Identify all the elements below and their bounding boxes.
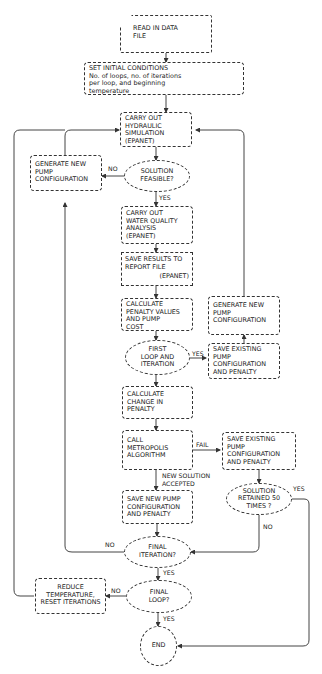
node-line: AND PENALTY xyxy=(213,369,275,377)
edge-label-first-loop-yes: YES xyxy=(192,350,204,357)
node-line: REPORT FILE xyxy=(125,264,189,272)
edge-label-feasible-yes: YES xyxy=(159,194,171,201)
water-quality-analysis-node: CARRY OUT WATER QUALITY ANALYSIS (EPANET… xyxy=(121,206,193,244)
calculate-change-penalty-node: CALCULATE CHANGE IN PENALTY xyxy=(122,386,193,419)
node-line: CONFIGURATION xyxy=(35,176,97,184)
flowchart-connectors xyxy=(0,0,322,674)
node-line: PENALTY xyxy=(127,406,188,414)
edge-label-final-iter-no: NO xyxy=(105,541,115,548)
node-line: FILE xyxy=(133,33,207,41)
node-line: AND PENALTY xyxy=(227,459,291,467)
node-line: RESET ITERATIONS xyxy=(38,599,103,607)
save-results-report-node: SAVE RESULTS TO REPORT FILE (EPANET) xyxy=(121,252,193,286)
edge-label-retained-yes: YES xyxy=(293,485,305,492)
generate-new-pump-config-right-node: GENERATE NEW PUMP CONFIGURATION xyxy=(208,296,280,335)
node-line: TIMES ? xyxy=(247,503,272,511)
read-data-node: READ IN DATA FILE xyxy=(120,15,212,53)
node-line: CONFIGURATION xyxy=(213,317,275,325)
final-loop-decision: FINAL LOOP? xyxy=(126,580,192,613)
solution-feasible-decision: SOLUTION FEASIBLE? xyxy=(124,160,190,192)
calculate-penalty-node: CALCULATE PENALTY VALUES AND PUMP COST xyxy=(121,298,193,331)
node-line: FEASIBLE? xyxy=(140,176,173,184)
final-iteration-decision: FINAL ITERATION? xyxy=(124,536,191,568)
node-line: temperature xyxy=(89,88,239,96)
save-existing-config-2-node: SAVE EXISTING PUMP CONFIGURATION AND PEN… xyxy=(222,432,296,470)
hydraulic-simulation-node: CARRY OUT HYDRAULIC SIMULATION (EPANET) xyxy=(120,112,192,147)
edge-label-accepted-line2: ACCEPTED xyxy=(162,480,195,487)
end-terminal: END xyxy=(140,626,177,666)
node-line: (EPANET) xyxy=(125,138,187,146)
node-line: ALGORITHM xyxy=(127,452,188,460)
metropolis-algorithm-node: CALL METROPOLIS ALGORITHM xyxy=(122,430,193,470)
node-line: END xyxy=(152,642,166,650)
edge-label-final-loop-no: NO xyxy=(111,587,121,594)
edge-label-final-iter-yes: YES xyxy=(163,569,175,576)
node-line: ITERATION? xyxy=(139,552,176,560)
edge-label-final-loop-yes: YES xyxy=(163,615,175,622)
node-line: (EPANET) xyxy=(126,233,188,241)
edge-label-accepted-line1: NEW SOLUTION xyxy=(162,472,210,479)
save-new-pump-config-node: SAVE NEW PUMP CONFIGURATION AND PENALTY xyxy=(122,490,193,524)
solution-retained-decision: SOLUTION RETAINED 50 TIMES ? xyxy=(226,483,292,515)
edge-label-metropolis-fail: FAIL xyxy=(196,441,209,448)
generate-new-pump-config-left-node: GENERATE NEW PUMP CONFIGURATION xyxy=(30,155,102,191)
node-line: LOOP? xyxy=(149,597,170,605)
init-conditions-node: SET INITIAL CONDITIONS No. of loops, no.… xyxy=(84,62,244,95)
node-line: AND PENALTY xyxy=(127,511,188,519)
save-existing-config-1-node: SAVE EXISTING PUMP CONFIGURATION AND PEN… xyxy=(208,343,280,379)
node-subnote: (EPANET) xyxy=(125,273,189,281)
node-line: ITERATION xyxy=(141,361,174,369)
reduce-temperature-node: REDUCE TEMPERATURE, RESET ITERATIONS xyxy=(35,578,106,614)
edge-label-feasible-no: NO xyxy=(108,165,118,172)
edge-label-retained-no: NO xyxy=(263,523,273,530)
first-loop-iteration-decision: FIRST LOOP AND ITERATION xyxy=(125,340,190,375)
node-line: COST xyxy=(126,324,188,332)
